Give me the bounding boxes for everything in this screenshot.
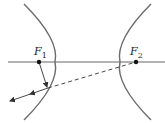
incident-ray <box>39 62 47 87</box>
diagram-canvas <box>0 0 165 123</box>
focus-f1-label: F1 <box>34 46 47 60</box>
hyperbola-diagram: F1 F2 <box>0 0 165 123</box>
focus-f2-point <box>134 60 138 64</box>
reflected-ray-extension <box>10 94 30 101</box>
focus-f2-label: F2 <box>130 46 143 60</box>
reflected-ray <box>30 88 48 94</box>
focus-f1-point <box>37 60 41 64</box>
